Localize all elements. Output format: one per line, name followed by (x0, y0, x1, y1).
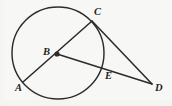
point-label-b: B (43, 47, 50, 58)
point-label-c: C (94, 7, 101, 18)
geometry-figure: A B C D E (0, 0, 172, 106)
center-marker-group (54, 51, 59, 56)
geometry-canvas (0, 0, 172, 106)
center-point-dot-b (54, 51, 59, 56)
point-label-d: D (155, 83, 163, 94)
point-label-e: E (105, 71, 112, 82)
point-label-a: A (15, 83, 22, 94)
